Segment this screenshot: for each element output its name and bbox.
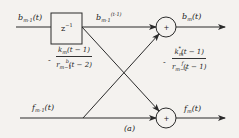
- f-input-label: fm-1(t): [32, 104, 54, 113]
- f-input-arg: (t): [45, 103, 54, 112]
- b-input-sub: m-1: [23, 17, 33, 23]
- sum-top-plus: +: [164, 24, 170, 32]
- right-gain-numerator: km*(t − 1): [172, 46, 206, 59]
- b-output-label: bm(t): [182, 13, 201, 22]
- f-input-sub: m-1: [35, 107, 45, 113]
- cross-f-to-b: [83, 34, 159, 118]
- left-gain-denominator: rm−1b(t − 2): [56, 57, 92, 70]
- b-input-arg: (t): [33, 13, 42, 22]
- b-delayed-label: bm-1(t-1): [96, 12, 122, 23]
- right-gain-denominator: rm−1f(t − 1): [172, 59, 206, 72]
- b-delayed-sub: m-1: [101, 17, 111, 23]
- b-input-label: bm-1(t): [18, 14, 42, 23]
- sum-bottom-plus: +: [164, 115, 170, 123]
- right-gain-sign: -: [163, 58, 166, 67]
- delay-block: [51, 13, 82, 44]
- left-gain-fraction: km(t − 1) rm−1b(t − 2): [56, 47, 92, 70]
- left-gain-sign: -: [48, 56, 51, 65]
- b-delayed-sup: (t-1): [111, 11, 122, 17]
- b-output-arg: (t): [192, 12, 201, 21]
- figure-caption: (a): [124, 124, 135, 133]
- cross-b-to-f: [82, 27, 159, 111]
- right-gain-fraction: km*(t − 1) rm−1f(t − 1): [172, 46, 206, 72]
- f-output-label: fm(t): [184, 105, 201, 114]
- left-gain-numerator: km(t − 1): [56, 47, 92, 57]
- delay-label: z−1: [61, 22, 73, 33]
- f-output-arg: (t): [192, 104, 201, 113]
